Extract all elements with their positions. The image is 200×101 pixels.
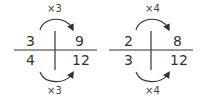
ratio-table-left: ×3 3 9 4 12 ×3 [0, 0, 100, 101]
cell-bottom-left: 3 [124, 53, 133, 67]
cell-bottom-left: 4 [26, 53, 35, 67]
bottom-multiplier-label: ×4 [145, 86, 160, 96]
ratio-table-right: ×4 2 8 3 12 ×4 [100, 0, 200, 101]
top-multiplier-label: ×3 [47, 4, 62, 14]
cell-bottom-right: 12 [170, 53, 188, 67]
cell-top-left: 2 [124, 34, 133, 48]
bottom-multiplier-label: ×3 [47, 86, 62, 96]
cell-top-right: 8 [173, 34, 182, 48]
cell-top-right: 9 [75, 34, 84, 48]
top-multiplier-label: ×4 [145, 4, 160, 14]
cell-bottom-right: 12 [72, 53, 90, 67]
cell-top-left: 3 [26, 34, 35, 48]
